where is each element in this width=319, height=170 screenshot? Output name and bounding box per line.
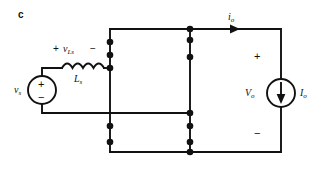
wire-source-bottom-to-mid-rail (42, 104, 190, 113)
node-left-upper-b (107, 52, 114, 59)
node-right-top-a (187, 26, 194, 33)
output-minus-sign: − (254, 128, 260, 139)
vs-minus-sign: − (38, 92, 44, 103)
node-right-lower-a (187, 123, 194, 130)
vs-plus-sign: + (38, 79, 44, 90)
node-left-inductor (107, 65, 114, 72)
wire-top-to-current-source (190, 29, 281, 79)
junction-dots (107, 26, 194, 156)
vls-minus-sign: − (90, 44, 96, 54)
node-right-top-c (187, 54, 194, 61)
io-top-label-sub: o (231, 16, 235, 24)
node-right-top-b (187, 37, 194, 44)
vs-label-sub: s (18, 89, 21, 97)
wire-source-to-inductor (42, 68, 62, 76)
node-right-mid (187, 110, 194, 117)
vls-plus-sign: + (53, 44, 59, 54)
inductor-coil (62, 64, 104, 69)
Ls-label: Ls (74, 74, 82, 86)
Ls-label-sub: s (80, 78, 83, 86)
node-left-upper-a (107, 39, 114, 46)
node-left-lower-a (107, 123, 114, 130)
circuit-schematic (0, 0, 319, 170)
node-left-lower-b (107, 139, 114, 146)
io-arrowhead (230, 25, 240, 34)
Io-label: Io (300, 88, 307, 100)
vls-label: vLs (63, 44, 74, 56)
vs-label: vs (14, 85, 21, 97)
Vo-label: Vo (245, 88, 255, 100)
wire-current-source-to-bottom (190, 107, 281, 152)
node-right-bottom (187, 149, 194, 156)
node-right-lower-b (187, 139, 194, 146)
output-plus-sign: + (254, 51, 260, 62)
circuit-figure: c vs + − + vLs − Ls io + − Vo Io (0, 0, 319, 170)
vls-label-sub: Ls (67, 48, 74, 56)
Io-label-sub: o (303, 92, 307, 100)
panel-letter: c (18, 10, 24, 20)
io-top-label: io (228, 12, 234, 24)
Vo-label-sub: o (251, 92, 255, 100)
